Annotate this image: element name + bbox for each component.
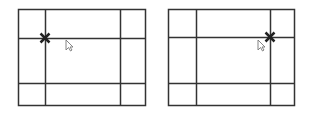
right-panel [168, 9, 295, 106]
mouse-cursor-icon [66, 40, 73, 51]
grid-diagram-canvas [0, 0, 309, 114]
grid-frame [19, 10, 146, 106]
mouse-cursor-icon [258, 40, 265, 51]
grid-frame [169, 10, 295, 106]
left-panel [18, 9, 146, 106]
